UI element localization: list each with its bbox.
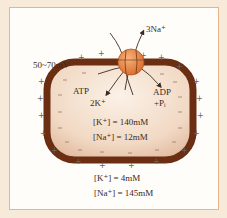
svg-text:+: + [153, 157, 160, 166]
svg-text:+: + [193, 77, 200, 86]
cell-diagram: + + + + + + + + + + + + + + + + + + + 3N… [0, 0, 227, 218]
svg-text:+: + [176, 62, 183, 71]
svg-text:+: + [128, 161, 135, 170]
svg-text:+: + [196, 94, 203, 103]
svg-text:+: + [38, 77, 45, 86]
svg-text:+: + [181, 146, 188, 155]
svg-text:+: + [75, 157, 82, 166]
pi-label: +Pᵢ [154, 98, 166, 108]
adp-label: ADP [153, 87, 171, 97]
inside-sodium-conc: [Na⁺] = 12mM [93, 132, 148, 142]
svg-text:+: + [78, 53, 85, 62]
svg-text:+: + [158, 53, 165, 62]
inside-potassium-conc: [K⁺] = 140mM [93, 117, 148, 127]
svg-text:+: + [51, 146, 58, 155]
svg-text:+: + [99, 161, 106, 170]
svg-text:+: + [98, 49, 105, 58]
potassium-in-label: 2K⁺ [90, 98, 106, 108]
svg-text:+: + [40, 129, 47, 138]
outside-potassium-conc: [K⁺] = 4mM [94, 173, 140, 183]
outside-sodium-conc: [Na⁺] = 145mM [94, 188, 153, 198]
membrane-potential-label: 50~70mV [33, 60, 70, 70]
svg-text:+: + [38, 111, 45, 120]
svg-text:+: + [37, 94, 44, 103]
sodium-out-label: 3Na⁺ [146, 24, 166, 34]
svg-text:+: + [197, 111, 204, 120]
svg-text:+: + [193, 129, 200, 138]
sodium-potassium-pump [118, 49, 144, 75]
atp-label: ATP [73, 86, 89, 96]
